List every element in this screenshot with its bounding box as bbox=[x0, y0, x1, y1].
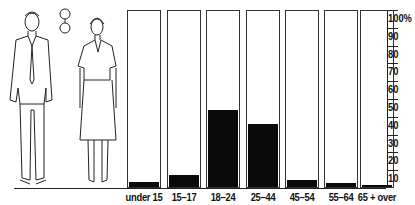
bar-fill bbox=[287, 180, 317, 187]
bar-fill bbox=[169, 175, 199, 187]
category-label: 65 + over bbox=[357, 191, 396, 203]
tick-line bbox=[388, 170, 398, 171]
bar bbox=[206, 10, 240, 188]
tick-label: 70 bbox=[388, 65, 398, 77]
man-figure-icon bbox=[10, 12, 52, 184]
category-label: 18–24 bbox=[203, 191, 242, 203]
bar-fill bbox=[248, 124, 278, 187]
tick-line bbox=[388, 81, 398, 82]
man-woman-illustration bbox=[0, 0, 125, 190]
bar bbox=[324, 10, 358, 188]
woman-figure-icon bbox=[78, 18, 116, 182]
tick-line bbox=[388, 99, 398, 100]
tick-label: 10 bbox=[388, 172, 398, 184]
tick-label: 100% bbox=[388, 12, 412, 24]
bar-fill bbox=[129, 182, 159, 187]
category-label: 55–64 bbox=[321, 191, 360, 203]
tick-line bbox=[388, 117, 398, 118]
tick-label: 40 bbox=[388, 119, 398, 131]
tick-line bbox=[388, 10, 398, 11]
tick-label: 30 bbox=[388, 137, 398, 149]
bar bbox=[167, 10, 201, 188]
bar bbox=[285, 10, 319, 188]
category-label: under 15 bbox=[124, 191, 163, 203]
tick-line bbox=[388, 135, 398, 136]
bar bbox=[246, 10, 280, 188]
tick-label: 50 bbox=[388, 101, 398, 113]
interlocked-rings-icon bbox=[60, 9, 70, 33]
category-label: 15–17 bbox=[164, 191, 203, 203]
tick-line bbox=[388, 46, 398, 47]
bar-fill bbox=[208, 110, 238, 187]
bar-fill bbox=[326, 183, 356, 187]
category-label: 45–54 bbox=[282, 191, 321, 203]
tick-line bbox=[388, 152, 398, 153]
tick-line bbox=[388, 28, 398, 29]
tick-label: 60 bbox=[388, 83, 398, 95]
tick-label: 90 bbox=[388, 30, 398, 42]
category-label: 25–44 bbox=[243, 191, 282, 203]
tick-label: 20 bbox=[388, 154, 398, 166]
tick-line bbox=[388, 63, 398, 64]
bar bbox=[127, 10, 161, 188]
tick-label: 80 bbox=[388, 48, 398, 60]
x-axis-baseline bbox=[14, 188, 386, 189]
